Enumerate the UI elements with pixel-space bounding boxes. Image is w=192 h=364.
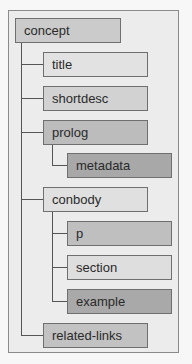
connector-section xyxy=(52,267,67,268)
connector-p xyxy=(52,233,67,234)
connector-related-links xyxy=(21,335,43,336)
connector-example xyxy=(52,301,67,302)
node-shortdesc: shortdesc xyxy=(43,86,148,111)
node-conbody: conbody xyxy=(43,187,148,212)
connector-title xyxy=(21,64,43,65)
node-related-links: related-links xyxy=(43,323,148,348)
connector-metadata xyxy=(52,165,67,166)
node-section: section xyxy=(67,255,172,280)
node-prolog: prolog xyxy=(43,120,148,145)
connector-shortdesc xyxy=(21,98,43,99)
connector-prolog xyxy=(21,132,43,133)
node-title: title xyxy=(43,52,148,77)
connector-conbody xyxy=(21,199,43,200)
node-example: example xyxy=(67,289,172,314)
connector-concept-trunk xyxy=(21,42,22,335)
connector-prolog-trunk xyxy=(52,144,53,166)
node-metadata: metadata xyxy=(67,153,172,178)
node-p: p xyxy=(67,221,172,246)
connector-conbody-trunk xyxy=(52,211,53,302)
node-concept: concept xyxy=(15,18,121,43)
